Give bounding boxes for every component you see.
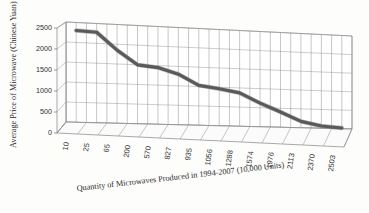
y-axis-title: Average Price of Microwave (Chinese Yuan… <box>9 1 18 148</box>
chart-svg: 05001000150020002500 1025652005708279351… <box>0 0 369 213</box>
x-tick-label: 25 <box>81 143 91 152</box>
chart-figure: 05001000150020002500 1025652005708279351… <box>0 0 369 213</box>
left-side-wall <box>57 22 66 133</box>
y-tick-label: 2000 <box>36 44 52 53</box>
y-tick-label: 500 <box>40 107 52 116</box>
x-tick-label: 200 <box>122 145 133 158</box>
x-axis-title: Quantity of Microwaves Produced in 1994-… <box>76 160 285 193</box>
x-tick-label: 2370 <box>306 154 317 172</box>
x-axis-tick-labels: 1025652005708279351056128815741976211323… <box>61 142 338 173</box>
y-tick-label: 1000 <box>36 86 52 95</box>
x-tick-label: 935 <box>183 148 194 161</box>
x-tick-label: 65 <box>102 144 112 153</box>
y-tick-label: 1500 <box>36 65 52 74</box>
x-tick-label: 1056 <box>203 149 214 167</box>
x-tick-label: 2503 <box>326 155 337 173</box>
y-axis-tick-marks <box>54 28 57 133</box>
x-tick-label: 10 <box>61 142 71 151</box>
y-tick-label: 0 <box>48 128 52 137</box>
x-tick-label: 2113 <box>285 153 296 170</box>
y-tick-label: 2500 <box>36 23 52 32</box>
x-tick-label: 570 <box>142 146 153 159</box>
x-tick-label: 1288 <box>224 150 235 168</box>
x-tick-label: 827 <box>163 147 174 160</box>
y-axis-tick-labels: 05001000150020002500 <box>36 23 52 137</box>
